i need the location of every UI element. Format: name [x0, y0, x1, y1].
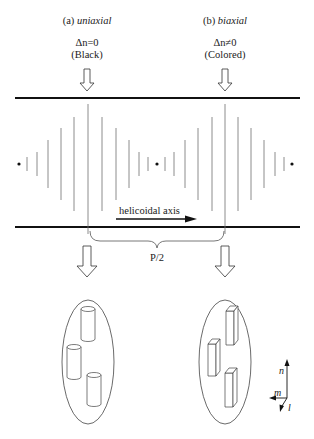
cylinder-icon	[87, 373, 101, 407]
prism-icon	[208, 339, 220, 376]
cylinder-icon	[67, 345, 81, 380]
hollow-down-arrow-icon	[80, 69, 94, 91]
label-b-condition: Δn≠0	[213, 37, 236, 48]
helicoidal-axis-label: helicoidal axis	[119, 205, 180, 216]
hollow-down-arrow-icon	[77, 246, 97, 277]
dot-right	[290, 162, 293, 165]
dot-left	[17, 162, 20, 165]
helicoidal-diagram: (a) uniaxial Δn=0 (Black) (b) biaxial Δn…	[0, 0, 314, 439]
axis-n-label: n	[279, 365, 284, 376]
axis-m-label: m	[274, 387, 281, 398]
solid-right-arrow-icon	[116, 216, 197, 223]
axes-triad: n m l	[269, 359, 291, 413]
cylinder-icon	[81, 307, 95, 342]
hollow-down-arrow-icon	[218, 69, 232, 91]
director-lines-right	[165, 104, 284, 234]
hollow-down-arrow-icon	[215, 246, 235, 277]
label-a: (a) uniaxial	[63, 15, 112, 27]
pitch-brace	[90, 231, 224, 248]
prism-icon	[226, 306, 238, 345]
label-a-condition: Δn=0	[75, 37, 98, 48]
pitch-label: P/2	[150, 252, 164, 263]
label-a-color: (Black)	[71, 49, 103, 61]
prism-icon	[225, 368, 237, 407]
label-b-color: (Colored)	[205, 49, 246, 61]
dot-center	[155, 162, 158, 165]
axis-l-label: l	[288, 402, 291, 413]
label-b: (b) biaxial	[203, 15, 247, 27]
